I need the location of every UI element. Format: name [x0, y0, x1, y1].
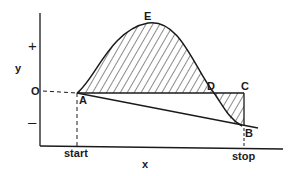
point-D-label: D — [207, 80, 215, 92]
hatched-region-upper — [77, 23, 214, 93]
y-plus-label: + — [28, 37, 37, 54]
point-B-label: B — [245, 127, 253, 139]
start-label: start — [64, 147, 88, 159]
point-E-label: E — [144, 10, 151, 22]
area-diagram: + y O – x start stop A B C D E — [0, 0, 298, 176]
hatched-region-lower — [214, 93, 244, 126]
y-minus-label: – — [28, 113, 37, 130]
origin-label: O — [31, 85, 40, 97]
stop-label: stop — [232, 150, 256, 162]
point-C-label: C — [241, 80, 249, 92]
y-axis-label: y — [15, 62, 22, 74]
x-axis-label: x — [142, 158, 149, 170]
point-A-label: A — [79, 94, 87, 106]
zero-dashed-line — [43, 91, 77, 93]
